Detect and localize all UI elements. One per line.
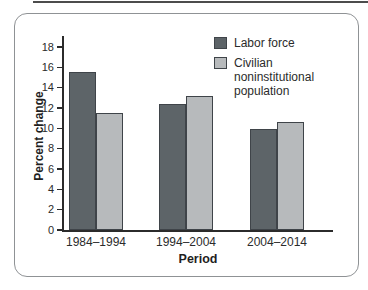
- top-rule: [33, 1, 368, 3]
- legend-label: Civilian noninstitutional population: [234, 56, 356, 98]
- y-tick-mark: [57, 229, 62, 230]
- x-category-label: 2004–2014: [229, 235, 325, 249]
- y-axis-line: [62, 36, 64, 231]
- y-tick-mark: [57, 148, 62, 149]
- y-tick-mark: [57, 209, 62, 210]
- x-axis-title: Period: [179, 252, 218, 266]
- bar-civilian-noninstitutional-population-group3: [277, 122, 304, 230]
- legend-item: Civilian noninstitutional population: [214, 56, 356, 98]
- y-tick-label: 6: [29, 163, 54, 175]
- bar-civilian-noninstitutional-population-group2: [186, 96, 213, 230]
- y-tick-mark: [57, 107, 62, 108]
- y-tick-label: 18: [29, 41, 54, 53]
- y-tick-mark: [57, 168, 62, 169]
- legend-swatch-icon: [214, 57, 227, 69]
- chart-frame: Percent change 024681012141618 1984–1994…: [14, 13, 359, 277]
- bar-labor-force-group3: [250, 129, 277, 230]
- y-tick-label: 16: [29, 61, 54, 73]
- y-tick-label: 0: [29, 224, 54, 236]
- y-tick-label: 4: [29, 183, 54, 195]
- legend-label: Labor force: [234, 36, 295, 50]
- x-category-label: 1994–2004: [138, 235, 234, 249]
- legend: Labor forceCivilian noninstitutional pop…: [214, 36, 356, 98]
- y-tick-mark: [57, 128, 62, 129]
- bar-labor-force-group2: [159, 104, 186, 230]
- x-category-label: 1984–1994: [48, 235, 144, 249]
- y-tick-label: 14: [29, 81, 54, 93]
- y-tick-label: 10: [29, 122, 54, 134]
- y-tick-mark: [57, 67, 62, 68]
- y-tick-mark: [57, 189, 62, 190]
- legend-swatch-icon: [214, 37, 227, 49]
- y-tick-label: 12: [29, 102, 54, 114]
- bar-civilian-noninstitutional-population-group1: [96, 113, 123, 230]
- y-tick-mark: [57, 46, 62, 47]
- y-tick-label: 2: [29, 203, 54, 215]
- legend-item: Labor force: [214, 36, 356, 50]
- y-tick-label: 8: [29, 142, 54, 154]
- y-tick-mark: [57, 87, 62, 88]
- x-axis-line: [62, 230, 333, 232]
- bar-labor-force-group1: [69, 72, 96, 230]
